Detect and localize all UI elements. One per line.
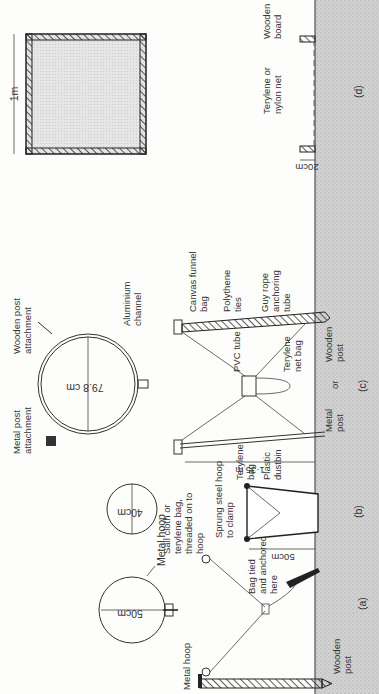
terylene-net-bag <box>256 378 290 394</box>
label-aluminium-2: channel <box>132 293 143 326</box>
diagram-frame: 50cm Metal hoop Metal hoop Sail cloth or… <box>0 0 379 694</box>
label-polythene-2: ties <box>232 297 243 312</box>
label-net-bag-2: net bag <box>292 340 303 372</box>
label-sail-cloth-4: hoop <box>194 533 205 554</box>
label-wooden-post-c-1: Wooden <box>323 327 334 362</box>
panel-d: 1m 20cm Terylene or nylon net Wooden boa… <box>8 4 364 173</box>
label-net-2: nylon net <box>272 75 283 114</box>
label-canvas-1: Canvas funnel <box>187 251 198 312</box>
label-sprung-1: Sprung steel hoop <box>213 461 224 538</box>
caption-a: (a) <box>356 597 368 610</box>
label-metal-post-1: Metal <box>323 409 334 432</box>
label-metal-attach-2: attachment <box>22 407 33 454</box>
label-board-2: board <box>272 15 283 39</box>
label-canvas-2: bag <box>198 296 209 312</box>
label-wooden-attach-2: attachment <box>22 307 33 354</box>
label-metal-hoop-side: Metal hoop <box>181 643 192 690</box>
ring-diameter: 79.8 cm <box>66 382 104 394</box>
label-sail-cloth-2: terylene bag, <box>172 499 183 554</box>
net-frame-plan <box>26 34 146 154</box>
width-d: 1m <box>8 86 20 101</box>
label-bag-tied-3: here <box>268 575 279 594</box>
label-net-bag-1: Terylene <box>281 336 292 372</box>
label-bag-tied-2: and anchored <box>257 536 268 594</box>
height-d: 20cm <box>295 162 318 173</box>
wooden-board-left <box>300 146 315 152</box>
label-sail-cloth-3: threaded on to <box>183 493 194 554</box>
wooden-post-a <box>200 679 322 688</box>
height-b: 50cm <box>271 552 294 563</box>
label-guy-2: anchoring <box>270 270 281 312</box>
label-or: or <box>329 381 340 389</box>
litter-trap-diagram: 50cm Metal hoop Metal hoop Sail cloth or… <box>0 0 379 694</box>
label-board-1: Wooden <box>261 4 272 39</box>
label-guy-3: tube <box>281 294 292 313</box>
wooden-post-c <box>182 312 330 332</box>
metal-post-attachment <box>46 436 56 446</box>
caption-b: (b) <box>352 505 364 518</box>
label-pvc: PVC tube <box>231 331 242 372</box>
label-metal-post-2: post <box>334 414 345 432</box>
label-aluminium-1: Aluminium <box>121 282 132 326</box>
label-net-1: Terylene or <box>261 67 272 114</box>
pvc-tube <box>242 376 256 396</box>
height-c: 1·35 m <box>235 465 265 476</box>
label-wooden-attach-1: Wooden post <box>11 298 22 354</box>
label-wooden-post-a-2: post <box>342 656 353 674</box>
caption-c: (c) <box>356 380 368 392</box>
label-plastic-2: dustbin <box>272 449 283 480</box>
label-guy-1: Guy rope <box>259 273 270 312</box>
wooden-board-right <box>300 36 315 42</box>
label-bag-tied-1: Bag tied <box>246 559 257 594</box>
hoop-diameter-b: 40cm <box>117 507 143 519</box>
label-sail-cloth-1: Sail cloth or <box>161 504 172 554</box>
panel-c: 79.8 cm Metal post attachment Wooden pos… <box>11 251 368 476</box>
caption-d: (d) <box>352 85 364 98</box>
label-wooden-post-c-2: post <box>334 344 345 362</box>
rotated-canvas: 50cm Metal hoop Metal hoop Sail cloth or… <box>0 0 379 694</box>
label-metal-attach-1: Metal post <box>11 410 22 454</box>
label-sprung-2: to clamp <box>224 502 235 538</box>
hoop-diameter-a: 50cm <box>117 608 143 620</box>
label-polythene-1: Polythene <box>221 270 232 312</box>
label-wooden-post-a-1: Wooden <box>331 639 342 674</box>
